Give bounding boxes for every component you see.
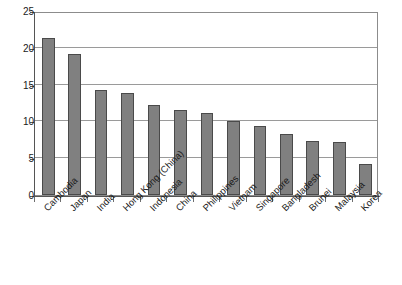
y-tick-label: 5 xyxy=(0,154,34,164)
y-tick-label: 0 xyxy=(0,191,34,201)
bar xyxy=(95,90,108,195)
gridline-15 xyxy=(35,84,377,85)
bar xyxy=(42,38,55,195)
bar xyxy=(68,54,81,195)
bar-chart: 0510152025 CambodiaJapanIndiaHong Kong (… xyxy=(0,0,402,285)
bar xyxy=(201,113,214,195)
y-tick-label: 20 xyxy=(0,44,34,54)
plot-area xyxy=(34,12,378,196)
x-tick-mark xyxy=(34,197,35,202)
bar xyxy=(121,93,134,195)
gridline-20 xyxy=(35,47,377,48)
y-axis-line xyxy=(34,12,35,197)
y-tick-label: 25 xyxy=(0,7,34,17)
bar xyxy=(333,142,346,195)
y-tick-label: 15 xyxy=(0,81,34,91)
y-tick-label: 10 xyxy=(0,117,34,127)
